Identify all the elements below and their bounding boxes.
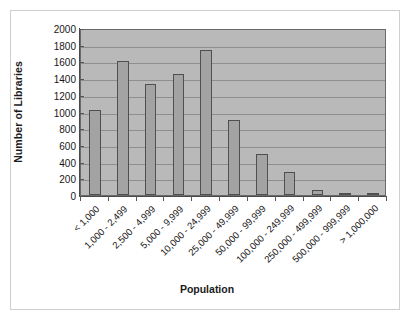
x-axis-line (79, 196, 387, 197)
y-tick-mark (79, 179, 84, 180)
y-tick-label: 0 (32, 191, 76, 202)
y-tick-label: 2000 (32, 24, 76, 35)
bar (284, 172, 296, 195)
x-tick-mark (219, 196, 220, 201)
x-tick-mark (358, 196, 359, 201)
bar (256, 154, 268, 195)
x-tick-mark (80, 196, 81, 201)
y-tick-label: 1400 (32, 74, 76, 85)
plot-area (80, 29, 386, 196)
y-tick-mark (79, 113, 84, 114)
bar (145, 84, 157, 195)
y-tick-mark (79, 29, 84, 30)
y-tick-mark (79, 79, 84, 80)
x-tick-mark (108, 196, 109, 201)
chart-figure: Number of Libraries 20001800160014001200… (0, 0, 414, 329)
bar (367, 193, 379, 195)
y-tick-mark (79, 96, 84, 97)
y-tick-label: 400 (32, 157, 76, 168)
bar (117, 61, 129, 195)
y-tick-mark (79, 129, 84, 130)
y-tick-mark (79, 62, 84, 63)
y-tick-label: 200 (32, 174, 76, 185)
y-axis-title: Number of Libraries (12, 42, 24, 182)
x-tick-mark (386, 196, 387, 201)
x-tick-mark (303, 196, 304, 201)
bar (312, 190, 324, 195)
bar (228, 120, 240, 195)
bar (89, 110, 101, 195)
y-tick-mark (79, 46, 84, 47)
gridline (81, 47, 385, 48)
x-tick-mark (163, 196, 164, 201)
y-tick-mark (79, 146, 84, 147)
x-tick-mark (275, 196, 276, 201)
bar (173, 74, 185, 195)
bar (200, 50, 212, 195)
y-tick-label: 800 (32, 124, 76, 135)
y-tick-label: 1800 (32, 40, 76, 51)
y-tick-label: 1200 (32, 90, 76, 101)
bar (339, 193, 351, 195)
y-tick-mark (79, 163, 84, 164)
y-tick-label: 1600 (32, 57, 76, 68)
y-tick-label: 1000 (32, 107, 76, 118)
x-tick-mark (191, 196, 192, 201)
y-tick-label: 600 (32, 140, 76, 151)
x-tick-mark (247, 196, 248, 201)
x-axis-title: Population (0, 283, 414, 295)
x-tick-mark (136, 196, 137, 201)
x-tick-mark (330, 196, 331, 201)
